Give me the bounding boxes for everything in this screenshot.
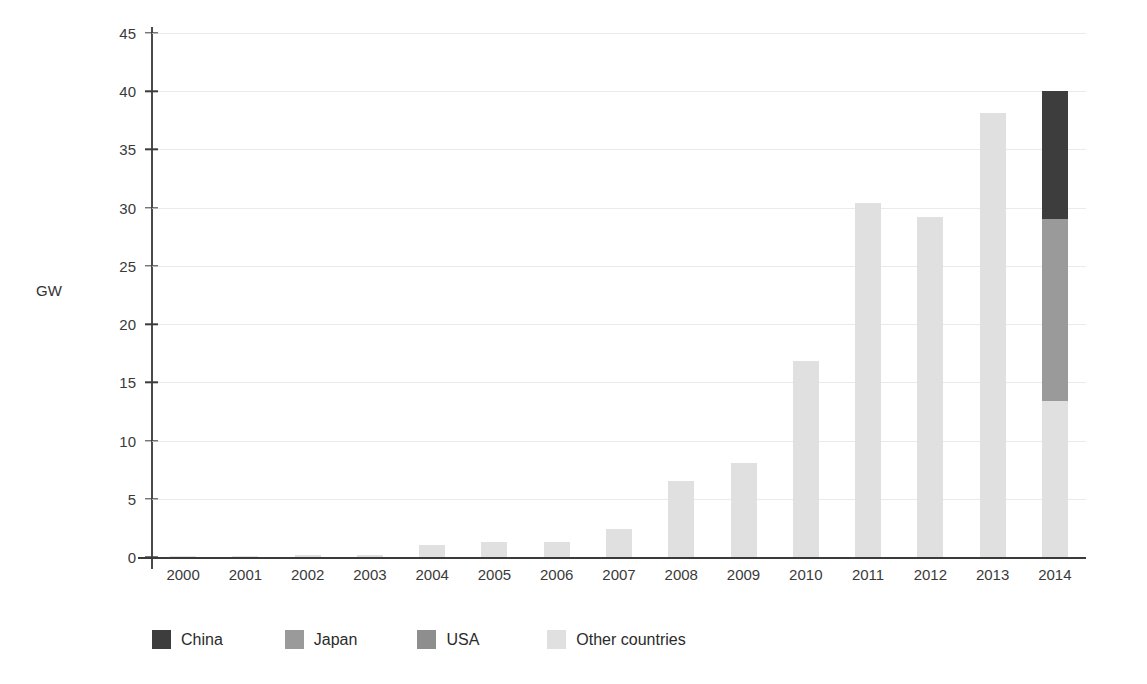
bar-segment bbox=[793, 361, 819, 557]
legend-label: Japan bbox=[314, 631, 358, 649]
bar-slot bbox=[463, 33, 525, 557]
stacked-bar[interactable] bbox=[544, 542, 570, 557]
legend-item[interactable]: China bbox=[152, 630, 223, 649]
x-axis-tick-label: 2012 bbox=[914, 566, 947, 583]
bar-segment bbox=[606, 529, 632, 557]
y-axis-title: GW bbox=[36, 282, 62, 299]
y-axis-tick-labels: 051015202530354045 bbox=[88, 33, 136, 557]
bar-slot bbox=[899, 33, 961, 557]
bar-slot bbox=[277, 33, 339, 557]
legend-item[interactable]: USA bbox=[417, 630, 479, 649]
y-axis-tick-label: 40 bbox=[96, 83, 136, 100]
x-axis-tick-label: 2004 bbox=[416, 566, 449, 583]
bar-segment bbox=[1042, 219, 1068, 401]
x-axis-tick-label: 2001 bbox=[229, 566, 262, 583]
bar-slot bbox=[650, 33, 712, 557]
legend-item[interactable]: Japan bbox=[285, 630, 358, 649]
y-axis-tick-label: 15 bbox=[96, 374, 136, 391]
x-axis-tick-label: 2010 bbox=[789, 566, 822, 583]
y-axis-tick-label: 10 bbox=[96, 432, 136, 449]
y-axis-tick-label: 20 bbox=[96, 316, 136, 333]
x-axis-tick-label: 2006 bbox=[540, 566, 573, 583]
bar-slot bbox=[339, 33, 401, 557]
x-axis-tick-label: 2000 bbox=[166, 566, 199, 583]
chart-legend: ChinaJapanUSAOther countries bbox=[152, 630, 686, 649]
bar-segment bbox=[357, 555, 383, 557]
legend-swatch-icon bbox=[152, 630, 171, 649]
plot-area bbox=[152, 33, 1086, 557]
y-axis-tick-label: 5 bbox=[96, 490, 136, 507]
stacked-bar[interactable] bbox=[855, 203, 881, 557]
legend-item[interactable]: Other countries bbox=[547, 630, 685, 649]
bar-segment bbox=[170, 556, 196, 557]
bar-slot bbox=[1024, 33, 1086, 557]
bar-segment bbox=[731, 463, 757, 557]
bar-segment bbox=[980, 113, 1006, 557]
stacked-bar[interactable] bbox=[980, 113, 1006, 557]
x-axis-tick-label: 2014 bbox=[1038, 566, 1071, 583]
bar-slot bbox=[214, 33, 276, 557]
legend-label: Other countries bbox=[576, 631, 685, 649]
bar-segment bbox=[855, 203, 881, 557]
bar-slot bbox=[588, 33, 650, 557]
bar-segment bbox=[232, 556, 258, 557]
bar-segment bbox=[481, 542, 507, 557]
bar-slot bbox=[961, 33, 1023, 557]
stacked-bar[interactable] bbox=[357, 555, 383, 557]
legend-swatch-icon bbox=[417, 630, 436, 649]
x-axis-tick-label: 2013 bbox=[976, 566, 1009, 583]
y-axis-tick-label: 45 bbox=[96, 25, 136, 42]
stacked-bar[interactable] bbox=[1042, 91, 1068, 557]
bar-segment bbox=[544, 542, 570, 557]
bar-slot bbox=[837, 33, 899, 557]
bar-slot bbox=[526, 33, 588, 557]
bar-segment bbox=[419, 545, 445, 557]
bar-segment bbox=[1042, 91, 1068, 219]
stacked-bar[interactable] bbox=[481, 542, 507, 557]
stacked-bar[interactable] bbox=[170, 556, 196, 557]
stacked-bar[interactable] bbox=[917, 217, 943, 557]
bar-segment bbox=[1042, 401, 1068, 557]
x-axis-tick-label: 2002 bbox=[291, 566, 324, 583]
stacked-bar[interactable] bbox=[668, 481, 694, 557]
legend-label: USA bbox=[446, 631, 479, 649]
x-axis-tick-label: 2003 bbox=[353, 566, 386, 583]
bar-slot bbox=[401, 33, 463, 557]
x-axis-tick-label: 2011 bbox=[852, 566, 884, 583]
bar-slot bbox=[152, 33, 214, 557]
y-axis-tick-label: 25 bbox=[96, 257, 136, 274]
stacked-bar[interactable] bbox=[793, 361, 819, 557]
y-axis-tick-label: 0 bbox=[96, 549, 136, 566]
legend-label: China bbox=[181, 631, 223, 649]
bar-segment bbox=[917, 217, 943, 557]
bar-segment bbox=[295, 555, 321, 557]
y-axis-tick-label: 35 bbox=[96, 141, 136, 158]
stacked-bar[interactable] bbox=[419, 545, 445, 557]
bar-slot bbox=[712, 33, 774, 557]
legend-swatch-icon bbox=[547, 630, 566, 649]
legend-swatch-icon bbox=[285, 630, 304, 649]
y-axis-tick-label: 30 bbox=[96, 199, 136, 216]
stacked-bar[interactable] bbox=[232, 556, 258, 557]
stacked-bar[interactable] bbox=[731, 463, 757, 557]
x-axis-tick-label: 2007 bbox=[602, 566, 635, 583]
x-axis-line bbox=[138, 557, 1086, 559]
x-axis-tick-label: 2008 bbox=[665, 566, 698, 583]
bar-segment bbox=[668, 481, 694, 557]
stacked-bar[interactable] bbox=[295, 555, 321, 557]
x-axis-tick-label: 2005 bbox=[478, 566, 511, 583]
bar-slot bbox=[775, 33, 837, 557]
stacked-bar[interactable] bbox=[606, 529, 632, 557]
x-axis-tick-label: 2009 bbox=[727, 566, 760, 583]
stacked-bar-chart: GW 051015202530354045 200020012002200320… bbox=[0, 0, 1147, 684]
